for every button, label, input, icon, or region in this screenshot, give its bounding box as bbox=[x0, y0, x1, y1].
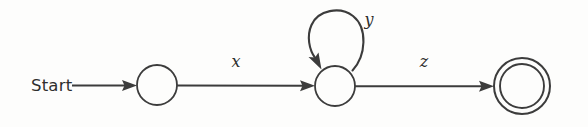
transition-label-z: z bbox=[419, 52, 429, 71]
transition-x bbox=[177, 80, 315, 91]
transition-label-x: x bbox=[231, 52, 240, 71]
finite-state-machine-diagram: Start x y z bbox=[0, 0, 588, 127]
transition-y-self-loop bbox=[309, 10, 364, 70]
state-s0 bbox=[137, 65, 177, 105]
transition-z bbox=[355, 81, 494, 92]
state-s2-outer-circle bbox=[494, 58, 550, 114]
state-s2-inner-circle bbox=[500, 64, 544, 108]
transition-label-y: y bbox=[363, 10, 374, 29]
state-s1 bbox=[315, 66, 355, 106]
state-s2-accepting bbox=[494, 58, 550, 114]
start-label: Start bbox=[31, 76, 73, 95]
diagram-canvas: Start x y z bbox=[0, 0, 588, 127]
start-transition-arrow bbox=[72, 80, 137, 91]
transition-y-arrow-head bbox=[309, 53, 322, 70]
